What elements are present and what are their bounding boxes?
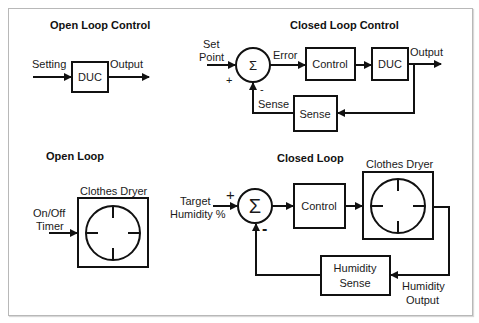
closed-loop-title: Closed Loop bbox=[277, 152, 344, 164]
target-label: Target bbox=[180, 195, 211, 207]
minus-sign: - bbox=[262, 220, 267, 237]
humidity-output-label-line2: Output bbox=[406, 294, 439, 306]
on-off-label: On/Off bbox=[33, 207, 66, 219]
duc-block-label: DUC bbox=[378, 58, 402, 70]
sense-feedback-label: Sense bbox=[258, 98, 289, 110]
closed-loop-control-title: Closed Loop Control bbox=[290, 19, 399, 31]
control-block-label: Control bbox=[301, 200, 336, 212]
humidity-percent-label: Humidity % bbox=[170, 208, 226, 220]
duc-block-label: DUC bbox=[78, 71, 102, 83]
error-label: Error bbox=[273, 49, 298, 61]
output-label: Output bbox=[410, 46, 443, 58]
humidity-output-label-line1: Humidity bbox=[402, 280, 445, 292]
minus-sign: - bbox=[260, 83, 264, 95]
control-block-label: Control bbox=[312, 58, 347, 70]
sigma-symbol: Σ bbox=[249, 195, 261, 217]
sigma-symbol: Σ bbox=[249, 58, 257, 73]
plus-sign: + bbox=[226, 186, 235, 203]
clothes-dryer-label: Clothes Dryer bbox=[80, 185, 148, 197]
plus-sign: + bbox=[226, 74, 232, 86]
sense-block-label: Sense bbox=[299, 108, 330, 120]
humidity-sense-label-line1: Humidity bbox=[334, 262, 377, 274]
open-loop-control-section: Open Loop Control Setting DUC Output bbox=[32, 19, 150, 92]
set-point-label-line2: Point bbox=[199, 51, 224, 63]
setting-label: Setting bbox=[32, 58, 66, 70]
open-loop-title: Open Loop bbox=[46, 150, 104, 162]
set-point-label-line1: Set bbox=[203, 38, 220, 50]
clothes-dryer-label: Clothes Dryer bbox=[366, 158, 434, 170]
open-loop-control-title: Open Loop Control bbox=[50, 19, 150, 31]
closed-loop-control-section: Closed Loop Control Set Point + Σ - Erro… bbox=[199, 19, 443, 131]
output-label: Output bbox=[110, 58, 143, 70]
open-loop-section: Open Loop Clothes Dryer On/Off Timer bbox=[33, 150, 148, 267]
humidity-sense-label-line2: Sense bbox=[339, 277, 370, 289]
closed-loop-section: Closed Loop Clothes Dryer Target Humidit… bbox=[170, 152, 449, 306]
control-loop-diagram: Open Loop Control Setting DUC Output Clo… bbox=[0, 0, 479, 323]
timer-label: Timer bbox=[36, 220, 64, 232]
